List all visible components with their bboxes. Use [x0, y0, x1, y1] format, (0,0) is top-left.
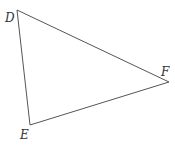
vertex-label-f: F — [160, 65, 170, 79]
vertex-label-d: D — [4, 11, 15, 25]
triangle-diagram: D E F — [0, 0, 175, 148]
vertex-label-e: E — [19, 128, 29, 142]
triangle-def — [17, 10, 169, 125]
